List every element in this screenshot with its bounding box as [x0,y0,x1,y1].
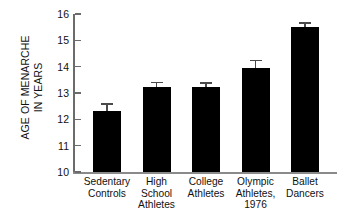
error-bar-cap [299,22,311,24]
x-axis-line [73,172,337,174]
x-axis-category-label: CollegeAthletes [178,176,234,199]
x-axis-category-label: HighSchoolAthletes [129,176,185,211]
x-axis-category-label-line: Controls [79,188,135,200]
y-axis-tick [75,92,81,93]
error-bar-cap [250,60,262,62]
y-axis-title-line-1: AGE OF MENARCHE [19,35,32,139]
y-axis-tick-label: 14 [57,61,69,72]
y-axis-title-line-2: IN YEARS [31,35,44,139]
y-axis-tick-label: 15 [57,35,69,46]
x-axis-category-label-line: Athletes [178,188,234,200]
x-axis-category-label-line: Olympic [228,176,284,188]
x-axis-category-label-line: High [129,176,185,188]
error-bar-stem [255,61,257,68]
bar [93,111,121,172]
x-axis-category-label-line: Sedentary [79,176,135,188]
error-bar-cap [151,82,163,84]
x-axis-category-label-line: Ballet [277,176,333,188]
bar [291,27,319,172]
bar [242,68,270,172]
x-axis-category-label: OlympicAthletes,1976 [228,176,284,211]
y-axis-tick-label: 13 [57,88,69,99]
y-axis-tick [75,66,81,67]
bar [192,87,220,172]
y-axis-tick-label: 11 [58,140,69,151]
x-axis-category-label-line: Athletes, [228,188,284,200]
x-axis-category-label-line: School [129,188,185,200]
x-axis-category-label-line: Dancers [277,188,333,200]
x-axis-category-label-line: College [178,176,234,188]
y-axis-tick-label: 12 [57,114,69,125]
bar-chart: AGE OF MENARCHE IN YEARS 10111213141516 … [0,0,353,224]
y-axis-tick [75,145,81,146]
y-axis-tick-label: 10 [57,167,69,178]
x-axis-category-label: SedentaryControls [79,176,135,199]
plot-area: 10111213141516 [73,14,337,172]
y-axis-tick [75,119,81,120]
x-axis-category-label: BalletDancers [277,176,333,199]
y-axis-tick [75,13,81,14]
error-bar-cap [200,82,212,84]
y-axis-tick [75,40,81,41]
x-axis-category-label-line: 1976 [228,199,284,211]
error-bar-stem [106,104,108,111]
y-axis-tick-label: 16 [57,9,69,20]
y-axis-tick [75,171,81,172]
error-bar-cap [101,103,113,105]
y-axis-title: AGE OF MENARCHE IN YEARS [0,0,62,175]
bar [143,87,171,172]
x-axis-category-label-line: Athletes [129,199,185,211]
